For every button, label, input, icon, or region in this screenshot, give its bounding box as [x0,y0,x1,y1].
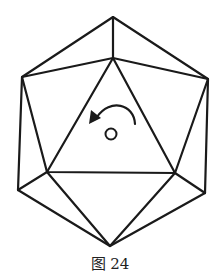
center-circle-marker [106,129,117,140]
rotation-arrow-icon [89,105,135,124]
icosahedron-edges [18,17,208,246]
front-face-triangle [47,58,175,173]
figure-caption: 图 24 [0,256,220,272]
